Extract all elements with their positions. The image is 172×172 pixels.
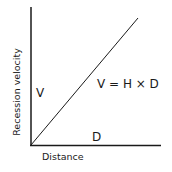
distance-symbol: D — [92, 131, 101, 143]
velocity-symbol: V — [36, 87, 44, 99]
y-axis-label: Recession velocity — [12, 48, 22, 136]
x-axis-label: Distance — [42, 152, 84, 162]
hubble-equation: V = H × D — [97, 78, 159, 90]
